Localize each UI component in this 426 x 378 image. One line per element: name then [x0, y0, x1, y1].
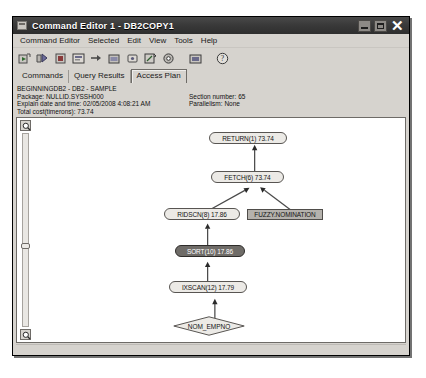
info-explain-datetime: Explain date and time: 02/05/2008 4:08:2… [17, 100, 150, 108]
close-button[interactable]: ✕ [390, 19, 405, 33]
plan-info-right: Section number: 65 Parallelism: None [189, 93, 245, 108]
plan-node-return[interactable]: RETURN(1) 73.74 [209, 132, 287, 144]
window-controls: ✕ [358, 19, 407, 33]
minimize-button[interactable] [358, 20, 371, 32]
settings-icon[interactable] [161, 51, 176, 66]
rollback-icon[interactable] [89, 51, 104, 66]
access-plan-icon[interactable] [143, 51, 158, 66]
menu-item-help[interactable]: Help [197, 34, 221, 47]
info-database: BEGINNINGDB2 - DB2 - SAMPLE [17, 85, 150, 93]
execute-icon[interactable] [17, 51, 32, 66]
info-total-cost: Total cost(timerons): 73.74 [17, 108, 150, 116]
plan-graph: RETURN(1) 73.74 FETCH(6) 73.74 RIDSCN(8)… [33, 118, 405, 342]
access-plan-canvas[interactable]: RETURN(1) 73.74 FETCH(6) 73.74 RIDSCN(8)… [16, 117, 406, 343]
menu-item-view[interactable]: View [145, 34, 170, 47]
menu-bar: Command Editor Selected Edit View Tools … [13, 34, 409, 48]
info-parallelism: Parallelism: None [189, 100, 245, 108]
info-package: Package: NULLID.SYSSH000 [17, 93, 150, 101]
plan-node-ixscan[interactable]: IXSCAN(12) 17.79 [169, 281, 247, 293]
display-icon[interactable] [188, 51, 203, 66]
command-editor-window: Command Editor 1 - DB2COPY1 ✕ Command Ed… [12, 16, 410, 356]
plan-node-sort[interactable]: SORT(10) 17.86 [175, 245, 245, 257]
plan-node-fetch[interactable]: FETCH(6) 73.74 [211, 171, 284, 183]
zoom-out-magnifier-icon[interactable] [20, 329, 31, 340]
zoom-slider[interactable] [19, 120, 32, 340]
plan-edges [33, 118, 405, 343]
zoom-track[interactable] [22, 133, 29, 327]
menu-item-selected[interactable]: Selected [84, 34, 123, 47]
menu-item-tools[interactable]: Tools [170, 34, 197, 47]
window-menu-icon[interactable] [17, 21, 27, 30]
plan-node-index-label: NOM_EMPNO [173, 316, 245, 336]
zoom-thumb[interactable] [21, 243, 30, 249]
help-icon[interactable]: ? [215, 51, 230, 66]
stop-icon[interactable] [53, 51, 68, 66]
info-section-number: Section number: 65 [189, 93, 245, 101]
window-title: Command Editor 1 - DB2COPY1 [32, 21, 174, 31]
plan-node-ridscn[interactable]: RIDSCN(8) 17.86 [164, 208, 240, 220]
clear-results-icon[interactable] [125, 51, 140, 66]
tab-query-results[interactable]: Query Results [69, 70, 131, 83]
commit-icon[interactable] [71, 51, 86, 66]
maximize-button[interactable] [374, 20, 387, 32]
plan-info-left: BEGINNINGDB2 - DB2 - SAMPLE Package: NUL… [17, 85, 150, 115]
open-icon[interactable] [107, 51, 122, 66]
screenshot-root: Command Editor 1 - DB2COPY1 ✕ Command Ed… [0, 0, 426, 378]
zoom-in-magnifier-icon[interactable] [20, 120, 31, 131]
plan-node-index-nom-empno[interactable]: NOM_EMPNO [173, 316, 245, 336]
tab-commands[interactable]: Commands [17, 70, 69, 83]
execute-all-icon[interactable] [35, 51, 50, 66]
status-bar [16, 344, 406, 353]
tab-access-plan[interactable]: Access Plan [131, 69, 187, 83]
plan-node-table-nomination-right[interactable]: FUZZY.NOMINATION [247, 209, 323, 220]
menu-item-edit[interactable]: Edit [123, 34, 145, 47]
menu-item-command-editor[interactable]: Command Editor [16, 34, 84, 47]
plan-info-panel: BEGINNINGDB2 - DB2 - SAMPLE Package: NUL… [13, 83, 409, 115]
tab-strip: Commands Query Results Access Plan [13, 68, 409, 83]
title-bar: Command Editor 1 - DB2COPY1 ✕ [13, 17, 409, 34]
toolbar: ? [13, 48, 409, 68]
